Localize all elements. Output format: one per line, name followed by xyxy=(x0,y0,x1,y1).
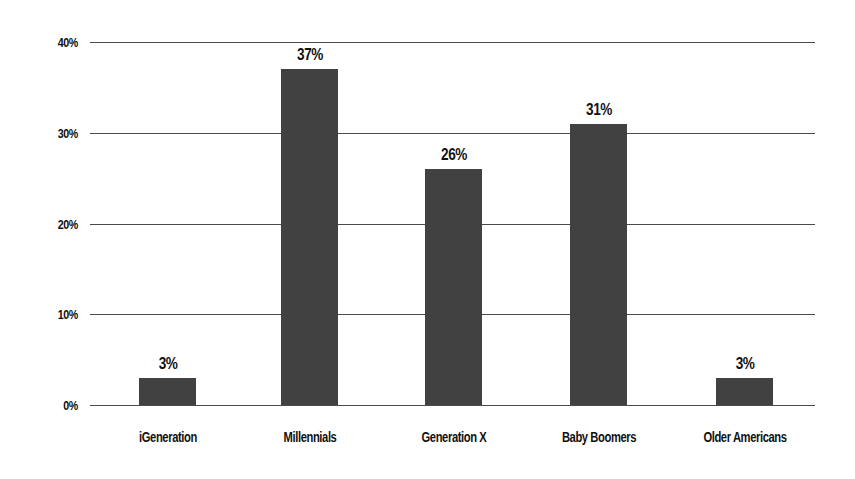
bar-value-millennials: 37% xyxy=(270,46,350,63)
plot-area: 3% 37% 26% 31% 3% xyxy=(90,42,815,405)
gridline-30 xyxy=(90,133,815,134)
bar-millennials[interactable] xyxy=(281,69,338,405)
bar-baby-boomers[interactable] xyxy=(570,124,627,405)
y-tick-label-0: 0% xyxy=(27,399,78,412)
bar-value-baby-boomers: 31% xyxy=(559,101,639,118)
y-tick-label-10: 10% xyxy=(27,308,78,321)
bar-igeneration[interactable] xyxy=(139,378,196,405)
gridline-40 xyxy=(90,42,815,43)
x-tick-label-older-americans: Older Americans xyxy=(673,430,817,444)
x-tick-label-millennials: Millennials xyxy=(238,430,382,444)
y-tick-label-30: 30% xyxy=(27,127,78,140)
x-tick-label-igeneration: iGeneration xyxy=(96,430,240,444)
bar-older-americans[interactable] xyxy=(716,378,773,405)
y-tick-label-20: 20% xyxy=(27,218,78,231)
x-tick-label-baby-boomers: Baby Boomers xyxy=(527,430,671,444)
y-tick-label-40: 40% xyxy=(27,36,78,49)
y-axis: 40% 30% 20% 10% 0% xyxy=(12,42,78,405)
bar-value-older-americans: 3% xyxy=(705,355,785,372)
bar-value-generation-x: 26% xyxy=(414,146,494,163)
x-axis: iGeneration Millennials Generation X Bab… xyxy=(0,430,855,454)
bar-generation-x[interactable] xyxy=(425,169,482,405)
x-tick-label-generation-x: Generation X xyxy=(382,430,526,444)
gridline-baseline-0 xyxy=(90,405,815,406)
bar-chart-figure: 40% 30% 20% 10% 0% 3% 37% 26% 31% 3% iGe… xyxy=(0,0,855,479)
bar-value-igeneration: 3% xyxy=(128,355,208,372)
